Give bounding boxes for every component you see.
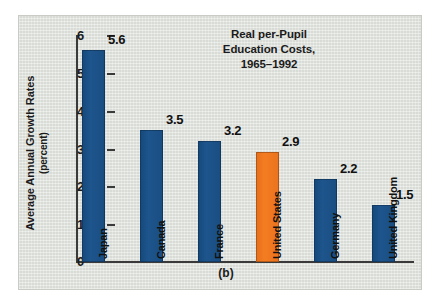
- chart-title: Real per-Pupil Education Costs, 1965–199…: [196, 27, 342, 72]
- chart-title-line-2: Education Costs,: [196, 42, 342, 57]
- figure-container: 6 5 4 3 2 1 0 Average Annual Growth Rate: [0, 0, 440, 307]
- y-tick-label-5: 5: [62, 67, 84, 80]
- bar-value-united-kingdom: 1.5: [396, 188, 440, 201]
- bar-label-united-kingdom: United Kingdom: [388, 139, 399, 259]
- y-axis-title-unit: (percent): [38, 53, 51, 253]
- chart-title-line-3: 1965–1992: [196, 57, 342, 72]
- bar-value-canada: 3.5: [166, 113, 212, 126]
- y-tick-label-6: 6: [62, 29, 84, 42]
- bar-value-france: 3.2: [224, 124, 270, 137]
- bar-label-canada: Canada: [156, 139, 167, 259]
- bar-value-united-states: 2.9: [282, 135, 328, 148]
- bar-label-united-states: United States: [272, 139, 283, 259]
- bar-label-japan: Japan: [98, 139, 109, 259]
- y-axis-title-main: Average Annual Growth Rates: [24, 76, 36, 231]
- y-tick-label-4: 4: [62, 105, 84, 118]
- y-tick-label-2: 2: [62, 180, 84, 193]
- y-tick-0: 0: [38, 261, 84, 263]
- plot-area: 6 5 4 3 2 1 0 Average Annual Growth Rate: [0, 0, 440, 307]
- figure-caption: (b): [196, 266, 256, 280]
- bar-value-germany: 2.2: [340, 162, 386, 175]
- bar-label-germany: Germany: [330, 139, 341, 259]
- x-axis-line: [76, 261, 414, 263]
- chart-title-line-1: Real per-Pupil: [196, 27, 342, 42]
- y-tick-6: 6: [38, 35, 84, 37]
- bar-value-japan: 5.6: [108, 33, 154, 46]
- y-tick-label-0: 0: [62, 255, 84, 268]
- y-tick-label-1: 1: [62, 218, 84, 231]
- y-tick-label-3: 3: [62, 143, 84, 156]
- bar-label-france: France: [214, 139, 225, 259]
- y-axis-title: Average Annual Growth Rates (percent): [24, 53, 50, 253]
